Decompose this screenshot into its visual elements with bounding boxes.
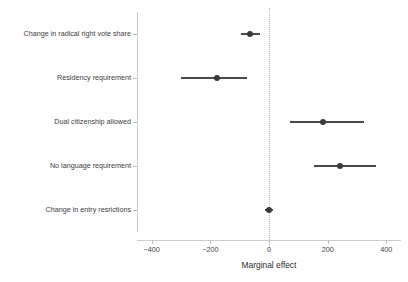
- x-axis-tick-label: 0: [267, 245, 271, 255]
- point-estimate-marker: [214, 75, 220, 81]
- x-axis-tick-label: −200: [202, 245, 218, 255]
- y-axis-tick: [133, 34, 137, 35]
- y-axis-category-label: No language requirement: [50, 159, 131, 172]
- point-estimate-marker: [266, 207, 272, 213]
- y-axis-line: [137, 12, 138, 232]
- confidence-interval-bar: [290, 121, 364, 123]
- coefficient-plot: Change in radical right vote shareReside…: [0, 0, 408, 282]
- x-axis-tick-label: −400: [144, 245, 160, 255]
- plot-panel: Change in radical right vote shareReside…: [137, 12, 401, 232]
- y-axis-category-label: Change in radical right vote share: [24, 27, 131, 40]
- y-axis-tick: [133, 210, 137, 211]
- point-estimate-marker: [337, 163, 343, 169]
- x-axis-tick: [328, 240, 329, 244]
- x-axis-tick: [269, 240, 270, 244]
- zero-reference-line: [269, 8, 270, 250]
- y-axis-tick: [133, 166, 137, 167]
- x-axis-tick: [386, 240, 387, 244]
- y-axis-tick: [133, 122, 137, 123]
- y-axis-category-label: Residency requirement: [57, 71, 131, 84]
- y-axis-category-label: Change in entry resrictions: [46, 203, 132, 216]
- x-axis-tick: [210, 240, 211, 244]
- point-estimate-marker: [320, 119, 326, 125]
- y-axis-category-label: Dual citizenship allowed: [54, 115, 131, 128]
- x-axis-tick: [152, 240, 153, 244]
- point-estimate-marker: [247, 31, 253, 37]
- x-axis-tick-label: 200: [322, 245, 334, 255]
- confidence-interval-bar: [314, 165, 376, 167]
- x-axis-title: Marginal effect: [137, 259, 401, 271]
- x-axis-tick-label: 400: [380, 245, 392, 255]
- y-axis-tick: [133, 78, 137, 79]
